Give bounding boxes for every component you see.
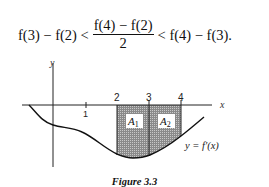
curve-label: y = f′(x) [184,140,219,152]
equation-fraction: f(4) − f(2) 2 [93,17,154,51]
equation-row: f(3) − f(2) < f(4) − f(2) 2 < f(4) − f(3… [18,18,232,52]
x-axis-label: x [219,99,225,110]
inequality-equation: f(3) − f(2) < f(4) − f(2) 2 < f(4) − f(3… [0,6,269,46]
tick-label-4: 4 [178,92,184,103]
y-axis-label: y [49,57,55,68]
equation-left: f(3) − f(2) < [18,27,89,44]
tick-label-2: 2 [114,92,120,103]
figure-caption: Figure 3.3 [0,176,269,187]
equation-right: < f(4) − f(3). [158,27,232,44]
fraction-numerator: f(4) − f(2) [93,17,154,35]
tick-label-3: 3 [146,92,152,103]
fraction-denominator: 2 [120,35,127,51]
tick-label-1: 1 [83,109,88,119]
figure-graph: A1 A2 y x 1 2 3 4 y = f′(x) [0,55,269,175]
